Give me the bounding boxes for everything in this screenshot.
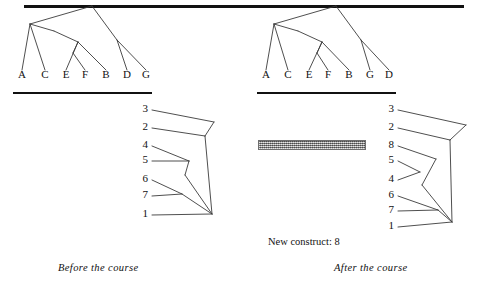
before-tree-baseline (13, 92, 152, 94)
diagram-lines-layer (0, 0, 478, 281)
before-course-caption: Before the course (58, 262, 138, 273)
dendrogram-edge (398, 128, 450, 140)
grid-element-label: 3 (380, 102, 394, 114)
tree-leaf-label: A (15, 68, 29, 80)
new-construct-hatched-bar (258, 140, 366, 150)
dendrogram-edge (152, 180, 182, 194)
dendrogram-edge (398, 161, 420, 172)
dendrogram-edge (30, 24, 54, 31)
dendrogram-edge (398, 222, 452, 227)
dendrogram-edge (22, 24, 30, 70)
dendrogram-edge (117, 40, 127, 70)
tree-leaf-label: A (259, 68, 273, 80)
dendrogram-edge (450, 140, 452, 222)
dendrogram-edge (422, 159, 436, 185)
tree-leaf-label: D (382, 68, 396, 80)
dendrogram-edge (398, 110, 466, 125)
dendrogram-edge (336, 6, 361, 40)
before-tree-edges (22, 6, 146, 70)
dendrogram-edge (152, 214, 212, 215)
dendrogram-edge (54, 31, 78, 42)
tree-leaf-label: F (321, 68, 335, 80)
grid-element-label: 6 (380, 188, 394, 200)
tree-leaf-label: D (120, 68, 134, 80)
dendrogram-edge (398, 146, 436, 159)
after-tree-baseline (257, 92, 396, 94)
dendrogram-edge (205, 136, 212, 214)
dendrogram-edge (274, 24, 288, 70)
tree-leaf-label: G (363, 68, 377, 80)
after-tree-edges (266, 6, 389, 70)
grid-element-label: 5 (134, 153, 148, 165)
dendrogram-edge (298, 31, 322, 42)
dendrogram-edge (450, 125, 466, 140)
dendrogram-edge (185, 175, 212, 214)
dendrogram-edge (185, 161, 189, 175)
grid-element-label: 6 (134, 172, 148, 184)
grid-element-label: 1 (380, 219, 394, 231)
dendrogram-edge (398, 210, 438, 211)
before-grid-edges (152, 110, 214, 215)
dendrogram-edge (152, 128, 205, 136)
dendrogram-edge (152, 146, 189, 161)
tree-leaf-label: E (302, 68, 316, 80)
tree-leaf-label: G (139, 68, 153, 80)
dendrogram-edge (274, 6, 336, 24)
grid-element-label: 7 (380, 203, 394, 215)
tree-leaf-label: C (38, 68, 52, 80)
dendrogram-edge (152, 110, 214, 122)
dendrogram-edge (274, 24, 298, 31)
dendrogram-edge (322, 42, 349, 70)
dendrogram-edge (266, 24, 274, 70)
grid-element-label: 1 (134, 207, 148, 219)
after-grid-edges (398, 110, 466, 227)
grid-element-label: 8 (380, 138, 394, 150)
grid-element-label: 4 (380, 172, 394, 184)
grid-element-label: 5 (380, 153, 394, 165)
tree-leaf-label: B (99, 68, 113, 80)
tree-leaf-label: C (281, 68, 295, 80)
dendrogram-edge (73, 42, 78, 53)
dendrogram-edge (317, 42, 322, 53)
grid-element-label: 4 (134, 138, 148, 150)
dendrogram-edge (182, 194, 212, 214)
dendrogram-edge (92, 6, 117, 40)
after-course-caption: After the course (334, 262, 407, 273)
new-construct-note: New construct: 8 (268, 236, 340, 247)
grid-element-label: 2 (134, 120, 148, 132)
dendrogram-edge (30, 6, 92, 24)
dendrogram-edge (152, 194, 182, 196)
grid-element-label: 3 (134, 102, 148, 114)
dendrogram-edge (422, 185, 452, 222)
dendrogram-edge (398, 196, 438, 210)
figure-canvas: ACEFBDG ACEFBGD 3245671 32854671 New con… (0, 0, 478, 281)
dendrogram-edge (117, 40, 146, 70)
grid-element-label: 7 (134, 188, 148, 200)
dendrogram-edge (398, 172, 420, 180)
dendrogram-edge (438, 210, 452, 222)
dendrogram-edge (205, 122, 214, 136)
dendrogram-edge (30, 24, 45, 70)
grid-element-label: 2 (380, 120, 394, 132)
tree-leaf-label: F (78, 68, 92, 80)
tree-leaf-label: B (342, 68, 356, 80)
tree-leaf-label: E (59, 68, 73, 80)
